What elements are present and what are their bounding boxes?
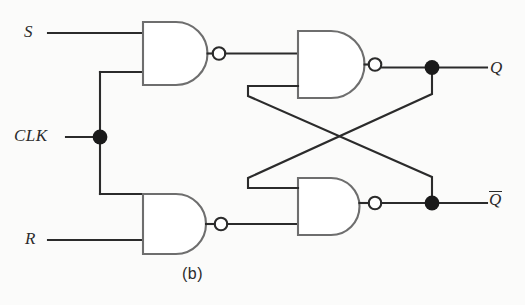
label-input-s: S <box>24 22 33 42</box>
circuit-schematic-svg <box>0 0 525 305</box>
qbar-junction-dot <box>425 196 440 211</box>
nand-gate-qbar-body <box>298 178 360 235</box>
label-input-r: R <box>25 229 36 249</box>
nand-gate-q-body <box>298 31 365 98</box>
clk-junction-dot <box>93 130 108 145</box>
nand-gate-r-bubble <box>215 218 228 231</box>
nand-gate-q-bubble <box>369 58 382 71</box>
label-output-qbar-text: Q <box>489 190 502 210</box>
q-junction-dot <box>425 60 440 75</box>
nand-gate-s-bubble <box>213 47 226 60</box>
figure-caption: (b) <box>182 265 203 283</box>
nand-gate-s-body <box>143 22 208 85</box>
label-output-q: Q <box>490 58 503 78</box>
label-output-qbar: Q <box>489 190 502 210</box>
circuit-diagram-figure: S CLK R Q Q (b) <box>0 0 525 305</box>
label-input-clk: CLK <box>14 126 48 146</box>
nand-gate-r-body <box>143 194 206 254</box>
nand-gate-qbar-bubble <box>369 197 382 210</box>
